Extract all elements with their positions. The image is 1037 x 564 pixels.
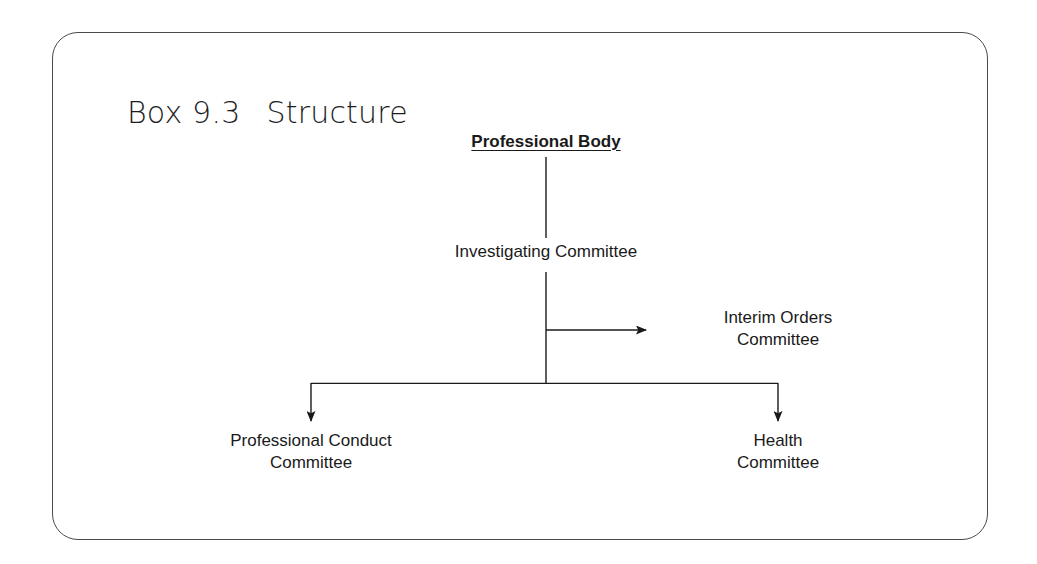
node-professional-body: Professional Body: [396, 131, 696, 153]
page-title: Box 9.3Structure: [88, 60, 408, 165]
box-title-text: Structure: [266, 95, 407, 130]
node-health-committee: Health Committee: [658, 430, 898, 474]
figure-root: Box 9.3Structure Professional Body Inves…: [0, 0, 1037, 564]
node-interim-orders-committee: Interim Orders Committee: [658, 307, 898, 351]
node-investigating-committee: Investigating Committee: [396, 241, 696, 263]
box-number-label: Box 9.3: [127, 95, 240, 130]
node-professional-conduct-committee: Professional Conduct Committee: [191, 430, 431, 474]
